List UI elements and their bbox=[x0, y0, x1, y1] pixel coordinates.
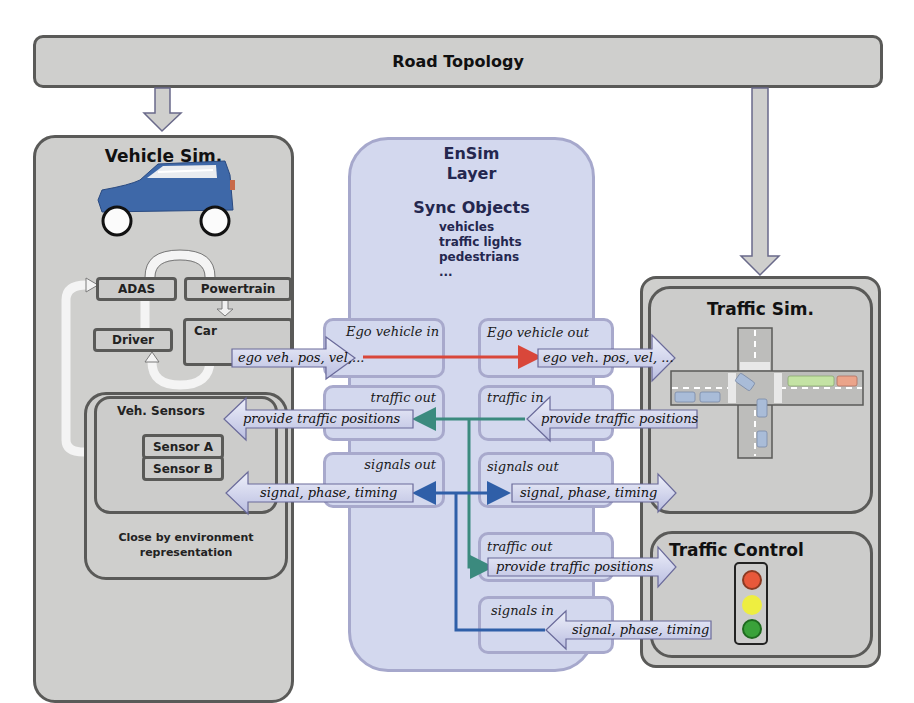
arrow-ego-in-label: ego veh. pos, vel,... bbox=[238, 350, 364, 365]
arrow-signal-from-control-label: signal, phase, timing bbox=[572, 622, 709, 637]
arrow-traffic-to-control-label: provide traffic positions bbox=[496, 559, 654, 574]
arrow-traffic-to-vehicle: provide traffic positions bbox=[224, 398, 413, 440]
arrow-signal-to-traffic: signal, phase, timing bbox=[512, 474, 676, 512]
arrow-signal-from-control: signal, phase, timing bbox=[546, 611, 711, 649]
arrow-traffic-to-control: provide traffic positions bbox=[488, 547, 676, 587]
arrow-signal-to-traffic-label: signal, phase, timing bbox=[520, 485, 657, 500]
arrow-signal-to-vehicle: signal, phase, timing bbox=[226, 472, 413, 514]
arrow-ego-out-label: ego veh. pos, vel, ... bbox=[543, 350, 674, 365]
arrow-traffic-from-sim-label: provide traffic positions bbox=[541, 411, 699, 426]
arrow-traffic-from-sim: provide traffic positions bbox=[527, 397, 699, 441]
arrow-ego-out: ego veh. pos, vel, ... bbox=[538, 335, 675, 381]
arrow-signal-to-vehicle-label: signal, phase, timing bbox=[260, 485, 397, 500]
arrow-ego-in: ego veh. pos, vel,... bbox=[232, 337, 364, 379]
arrow-traffic-to-vehicle-label: provide traffic positions bbox=[243, 411, 401, 426]
